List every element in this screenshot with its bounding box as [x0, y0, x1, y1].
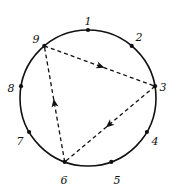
- point-dot-9: [42, 44, 46, 48]
- circle-diagram-figure: 123456789: [0, 0, 175, 196]
- point-label-4: 4: [151, 135, 159, 148]
- point-label-5: 5: [114, 174, 121, 187]
- point-label-3: 3: [160, 81, 167, 94]
- point-label-8: 8: [8, 82, 15, 95]
- point-dot-7: [27, 130, 31, 134]
- point-label-2: 2: [135, 31, 143, 44]
- diagram-canvas: 123456789: [0, 0, 175, 196]
- edge-arrowheads: [50, 62, 114, 130]
- point-dot-3: [153, 84, 157, 88]
- point-label-7: 7: [17, 135, 24, 148]
- arrowhead-9-3: [95, 62, 105, 71]
- point-label-1: 1: [85, 15, 92, 28]
- point-dot-1: [86, 28, 90, 32]
- point-dot-4: [145, 130, 149, 134]
- point-dot-8: [19, 84, 23, 88]
- point-label-6: 6: [61, 174, 68, 187]
- point-label-9: 9: [33, 33, 40, 46]
- point-dot-2: [130, 44, 134, 48]
- point-dot-6: [63, 160, 67, 164]
- point-labels: 123456789: [8, 15, 167, 187]
- point-dot-5: [109, 160, 113, 164]
- outer-circle: [20, 30, 156, 166]
- point-markers: [19, 28, 157, 164]
